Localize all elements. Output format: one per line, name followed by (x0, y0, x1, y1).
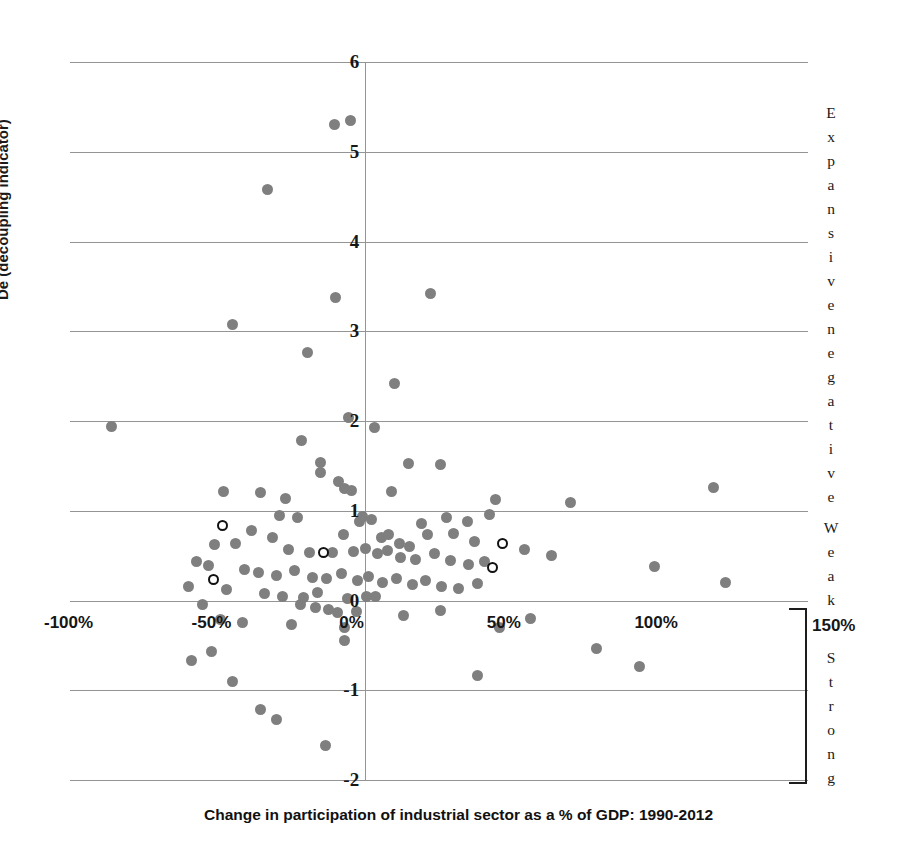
data-point (221, 584, 232, 595)
data-point (422, 529, 433, 540)
data-point (360, 543, 371, 554)
annotation-letter: o (818, 722, 844, 738)
data-point (304, 547, 315, 558)
gridline-y (70, 690, 808, 691)
x-axis-title: Change in participation of industrial se… (0, 806, 917, 824)
data-point (292, 512, 303, 523)
data-point (191, 556, 202, 567)
data-point (436, 581, 447, 592)
data-point (289, 565, 300, 576)
data-point (708, 482, 719, 493)
data-point (296, 435, 307, 446)
data-point (307, 572, 318, 583)
data-point (407, 579, 418, 590)
data-point (259, 588, 270, 599)
data-point (363, 571, 374, 582)
data-point (230, 538, 241, 549)
data-point (106, 421, 117, 432)
y-tick-label: 3 (325, 320, 359, 342)
data-point (206, 646, 217, 657)
data-point (484, 509, 495, 520)
annotation-letter: n (818, 746, 844, 762)
data-point-highlighted (208, 574, 219, 585)
y-axis-title: De (decoupling indicator) (0, 0, 11, 300)
data-point (634, 661, 645, 672)
data-point (246, 525, 257, 536)
data-point (339, 635, 350, 646)
data-point (519, 544, 530, 555)
data-point (348, 546, 359, 557)
data-point (453, 583, 464, 594)
y-tick-label: 4 (325, 231, 359, 253)
data-point (403, 458, 414, 469)
data-point (218, 486, 229, 497)
data-point (277, 591, 288, 602)
data-point (395, 552, 406, 563)
annotation-letter: p (818, 153, 844, 169)
data-point (227, 676, 238, 687)
gridline-y (70, 62, 808, 63)
data-point (382, 545, 393, 556)
data-point-highlighted (318, 547, 329, 558)
data-point (329, 119, 340, 130)
data-point (227, 319, 238, 330)
annotation-letter: e (818, 345, 844, 361)
data-point (321, 573, 332, 584)
x-axis-end-label: 150% (812, 616, 855, 636)
data-point (345, 115, 356, 126)
data-point (420, 575, 431, 586)
annotation-letter: r (818, 698, 844, 714)
data-point (416, 518, 427, 529)
annotation-letter: t (818, 674, 844, 690)
data-point (472, 670, 483, 681)
annotation-letter: g (818, 369, 844, 385)
annotation-letter: i (818, 441, 844, 457)
data-point (398, 610, 409, 621)
data-point (197, 599, 208, 610)
annotation-letter: a (818, 177, 844, 193)
data-point (312, 587, 323, 598)
data-point (429, 548, 440, 559)
data-point-highlighted (487, 562, 498, 573)
x-tick-label: 50% (487, 613, 521, 633)
data-point (286, 619, 297, 630)
data-point (255, 487, 266, 498)
data-point (394, 538, 405, 549)
annotation-letter: a (818, 393, 844, 409)
data-point (338, 529, 349, 540)
data-point (391, 573, 402, 584)
x-tick-label: 100% (634, 613, 677, 633)
data-point (346, 485, 357, 496)
annotation-letter: W (818, 520, 844, 536)
gridline-y (70, 421, 808, 422)
data-point (445, 555, 456, 566)
data-point (410, 554, 421, 565)
data-point (267, 532, 278, 543)
data-point (490, 494, 501, 505)
y-tick-label: 5 (325, 141, 359, 163)
data-point (565, 497, 576, 508)
gridline-y (70, 780, 808, 781)
data-point-highlighted (217, 520, 228, 531)
data-point-highlighted (497, 538, 508, 549)
data-point (525, 613, 536, 624)
data-point (283, 544, 294, 555)
data-point (336, 568, 347, 579)
data-point (262, 184, 273, 195)
data-point (472, 578, 483, 589)
annotation-letter: n (818, 201, 844, 217)
y-tick-label: 2 (325, 410, 359, 432)
data-point (255, 704, 266, 715)
data-point (274, 510, 285, 521)
y-tick-label: 1 (325, 500, 359, 522)
annotation-letter: S (818, 650, 844, 666)
data-point (366, 514, 377, 525)
y-tick-label: 6 (325, 51, 359, 73)
gridline-y (70, 511, 808, 512)
annotation-letter: g (818, 770, 844, 786)
plot-area (70, 62, 808, 780)
data-point (469, 536, 480, 547)
data-point (237, 617, 248, 628)
data-point (315, 467, 326, 478)
data-point (369, 422, 380, 433)
